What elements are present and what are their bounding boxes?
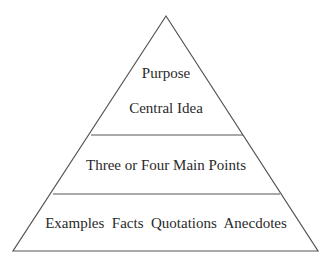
level-top-line-2: Central Idea bbox=[129, 100, 203, 116]
level-middle-label: Three or Four Main Points bbox=[86, 157, 246, 173]
pyramid-diagram: Purpose Central Idea Three or Four Main … bbox=[0, 0, 331, 263]
level-top-line-1: Purpose bbox=[142, 65, 191, 81]
level-bottom-label: Examples Facts Quotations Anecdotes bbox=[45, 215, 287, 231]
